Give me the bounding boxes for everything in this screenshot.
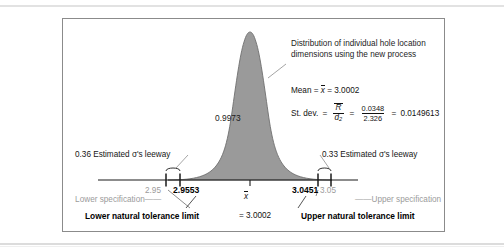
leader-lower-tolerance (186, 196, 196, 208)
sd-denominator-value: 2.326 (362, 113, 385, 122)
leader-leeway-left (176, 155, 188, 168)
sd-numeric-fraction: 0.0348 2.326 (360, 105, 387, 122)
sd-label: St. dev. (291, 109, 318, 118)
upper-tolerance-limit-label: Upper natural tolerance limit (301, 211, 415, 221)
sd-symbolic-fraction: R d2 (333, 104, 345, 123)
leeway-label-right: 0.33 Estimated σ's leeway (322, 150, 417, 159)
leeway-label-left: 0.36 Estimated σ's leeway (75, 150, 170, 159)
tick-label-lower-spec: 2.95 (145, 186, 161, 195)
mean-value: 3.0002 (334, 86, 359, 95)
tick-label-lower-tolerance: 2.9553 (173, 185, 199, 195)
area-proportion-label: 0.9973 (215, 113, 241, 123)
lower-tolerance-limit-label: Lower natural tolerance limit (85, 211, 199, 221)
upper-specification-label: ——Upper specification (346, 186, 441, 213)
sd-numerator-value: 0.0348 (360, 105, 387, 113)
leeway-bracket-left (166, 168, 180, 171)
tick-label-mean-symbol: x (244, 192, 248, 201)
distribution-description: Distribution of individual hole location… (291, 38, 441, 61)
tick-label-upper-tolerance: 3.0451 (292, 185, 318, 195)
tick-label-upper-spec: 3.05 (320, 186, 336, 195)
standard-deviation-formula: St. dev. = R d2 = 0.0348 2.326 = 0.01496… (291, 104, 439, 123)
mean-formula: Mean = x = 3.0002 (291, 86, 359, 95)
mean-equation-below-axis: = 3.0002 (239, 211, 271, 220)
sd-numerator-symbol: R (333, 104, 343, 113)
figure-canvas: Distribution of individual hole location… (0, 0, 504, 251)
leader-distribution-description (268, 64, 286, 78)
mean-label: Mean (291, 86, 311, 95)
leader-upper-tolerance (298, 196, 306, 208)
sd-result: 0.0149613 (400, 109, 439, 118)
sd-denominator-symbol: d2 (333, 113, 345, 123)
leeway-bracket-right (318, 168, 331, 171)
mean-symbol: x (321, 86, 325, 95)
